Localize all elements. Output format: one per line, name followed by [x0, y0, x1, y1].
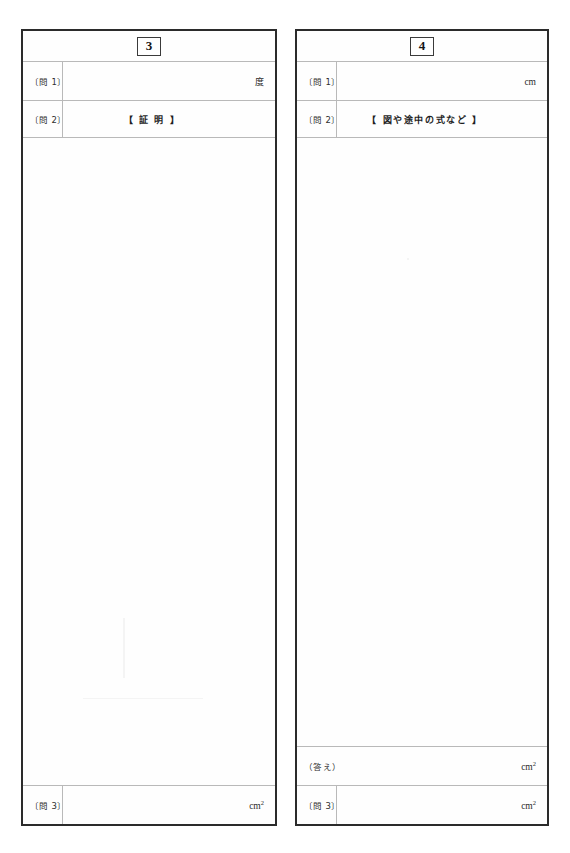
unit-label-cm: cm [524, 75, 536, 87]
question-label-q3: 〔問 3〕 [297, 786, 337, 824]
scan-artifact [407, 258, 409, 260]
working-writing-area[interactable] [297, 138, 547, 747]
answer-row-q2: 〔問 2〕 【 図や途中の式など 】 [297, 101, 547, 138]
final-answer-field[interactable]: cm2 [357, 747, 547, 785]
answer-row-final-answer: （答え） cm2 [297, 747, 547, 786]
scan-artifact [83, 698, 203, 699]
answer-row-q3: 〔問 3〕 cm2 [297, 786, 547, 824]
final-answer-label: （答え） [297, 747, 357, 785]
question-label-q1: 〔問 1〕 [297, 62, 337, 100]
answer-row-q1: 〔問 1〕 度 [23, 62, 275, 101]
panel-header-problem-3: 3 [23, 31, 275, 62]
question-label-q2: 〔問 2〕 [297, 101, 337, 137]
unit-label-degrees: 度 [255, 75, 264, 88]
question-label-q3: 〔問 3〕 [23, 786, 63, 824]
answer-panel-problem-3: 3 〔問 1〕 度 〔問 2〕 【 証 明 】 〔問 3〕 cm2 [21, 29, 277, 826]
answer-field-q1[interactable]: 度 [63, 62, 275, 100]
answer-field-q1[interactable]: cm [337, 62, 547, 100]
unit-label-cm-squared: cm2 [521, 760, 536, 772]
problem-number-box: 4 [410, 37, 434, 56]
section-caption-working: 【 図や途中の式など 】 [337, 101, 547, 137]
answer-field-q3[interactable]: cm2 [337, 786, 547, 824]
answer-row-q2: 〔問 2〕 【 証 明 】 [23, 101, 275, 138]
section-caption-proof: 【 証 明 】 [63, 101, 275, 137]
answer-field-q3[interactable]: cm2 [63, 786, 275, 824]
unit-label-cm-squared: cm2 [249, 799, 264, 811]
scan-artifact [123, 618, 125, 678]
unit-label-cm-squared: cm2 [521, 799, 536, 811]
question-label-q2: 〔問 2〕 [23, 101, 63, 137]
answer-row-q3: 〔問 3〕 cm2 [23, 786, 275, 824]
problem-number-box: 3 [137, 37, 161, 56]
question-label-q1: 〔問 1〕 [23, 62, 63, 100]
answer-row-q1: 〔問 1〕 cm [297, 62, 547, 101]
proof-writing-area[interactable] [23, 138, 275, 786]
answer-panel-problem-4: 4 〔問 1〕 cm 〔問 2〕 【 図や途中の式など 】 （答え） cm2 〔… [295, 29, 549, 826]
panel-header-problem-4: 4 [297, 31, 547, 62]
